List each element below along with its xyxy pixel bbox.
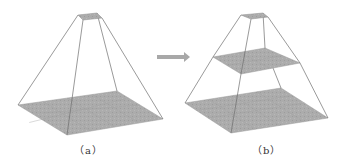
top-plane-b: [241, 13, 268, 19]
pyramid-b: [185, 13, 328, 133]
panel-label-b: （b）: [252, 142, 281, 157]
base-plane-a: [18, 91, 163, 135]
arrow-icon: [157, 52, 190, 62]
pyramid-a: [18, 13, 163, 135]
pyramid-diagram: [0, 0, 346, 165]
middle-plane-b: [213, 48, 300, 74]
panel-label-a: （a）: [74, 142, 103, 157]
